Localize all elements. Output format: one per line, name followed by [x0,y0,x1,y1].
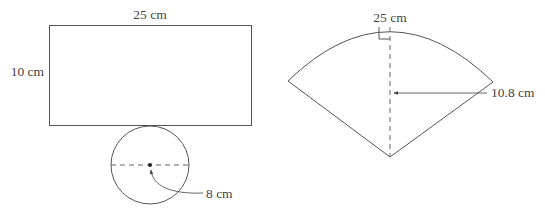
rectangle-net: 25 cm 10 cm [11,7,252,126]
circle-base: 8 cm [111,126,233,204]
sector-radius-label: 10.8 cm [491,85,535,100]
radius-pointer-arrow [151,170,203,193]
circle-radius-label: 8 cm [206,186,233,201]
net-diagram: 25 cm 10 cm 8 cm 25 cm 10.8 cm [0,0,545,216]
rectangle [50,26,252,126]
sector-net: 25 cm 10.8 cm [288,10,535,157]
right-angle-marker [379,27,390,39]
sector-arc-label: 25 cm [373,10,407,25]
center-dot [148,163,152,167]
rectangle-width-label: 25 cm [133,7,167,22]
rectangle-height-label: 10 cm [11,64,45,79]
